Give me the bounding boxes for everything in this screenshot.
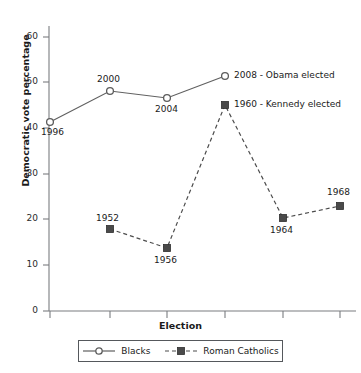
series-markers-blacks	[47, 73, 229, 126]
point-label-catholics-1968: 1968	[327, 187, 350, 197]
chart-container: 60 50 40 30 20 10 0 Democratic vote perc…	[0, 0, 361, 373]
x-axis-title: Election	[0, 320, 361, 331]
legend-swatch-roman-catholics-icon	[164, 346, 198, 356]
legend-label-roman-catholics: Roman Catholics	[203, 346, 278, 356]
legend-swatch-blacks-icon	[82, 346, 116, 356]
point-label-catholics-1964: 1964	[270, 225, 293, 235]
y-tick-marks	[43, 37, 49, 311]
annotation-kennedy-elected: 1960 - Kennedy elected	[234, 99, 341, 109]
plot-area	[0, 0, 361, 373]
point-label-catholics-1952: 1952	[96, 213, 119, 223]
legend-item-blacks: Blacks	[82, 346, 150, 356]
y-tick-label-10: 10	[12, 259, 38, 269]
y-axis-title: Democratic vote percentage	[20, 16, 31, 206]
point-label-blacks-2000: 2000	[97, 74, 120, 84]
series-line-blacks	[50, 76, 225, 122]
series-markers-roman-catholics	[107, 102, 344, 252]
legend-label-blacks: Blacks	[121, 346, 150, 356]
point-label-blacks-2004: 2004	[155, 104, 178, 114]
point-label-catholics-1956: 1956	[154, 255, 177, 265]
point-label-blacks-1996: 1996	[41, 127, 64, 137]
y-tick-label-20: 20	[12, 213, 38, 223]
annotation-obama-elected: 2008 - Obama elected	[234, 70, 335, 80]
chart-legend: Blacks Roman Catholics	[78, 340, 283, 362]
series-line-roman-catholics	[110, 105, 340, 248]
y-tick-label-0: 0	[12, 305, 38, 315]
legend-item-roman-catholics: Roman Catholics	[164, 346, 278, 356]
x-tick-marks	[50, 311, 340, 318]
